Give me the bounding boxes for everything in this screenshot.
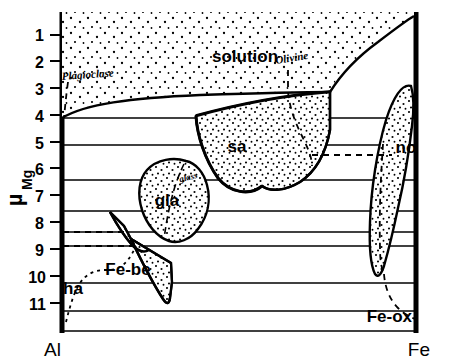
ytick-label-5: 5 [35, 135, 44, 152]
ytick-label-6: 6 [35, 161, 44, 178]
diagram-canvas: 1 2 3 4 5 6 7 8 9 10 11 µ Mg Al Fe solut… [0, 0, 453, 363]
x-axis-label-al: Al [44, 339, 61, 360]
label-fe-be: Fe-be [105, 260, 150, 279]
label-fe-ox: Fe-ox [367, 307, 413, 326]
phase-diagram-figure: 1 2 3 4 5 6 7 8 9 10 11 µ Mg Al Fe solut… [0, 0, 453, 363]
ytick-label-1: 1 [35, 27, 44, 44]
label-sa: sa [228, 137, 247, 156]
y-axis-title-mu: µ [2, 194, 27, 207]
ytick-label-9: 9 [35, 242, 44, 259]
x-axis-label-fe: Fe [408, 339, 430, 360]
ytick-label-8: 8 [35, 215, 44, 232]
ytick-label-2: 2 [35, 54, 44, 71]
ytick-label-10: 10 [28, 269, 46, 286]
ytick-label-7: 7 [35, 188, 44, 205]
ytick-label-11: 11 [29, 296, 46, 313]
label-no: no [396, 138, 417, 157]
label-solution: solution [212, 47, 278, 66]
label-gla: gla [155, 191, 180, 210]
label-ha: ha [63, 279, 83, 298]
ytick-label-4: 4 [35, 108, 44, 125]
y-axis-title-mg: Mg [19, 170, 35, 190]
y-axis-title: µ Mg [2, 170, 35, 207]
region-sa [196, 92, 330, 192]
ytick-label-3: 3 [35, 81, 44, 98]
